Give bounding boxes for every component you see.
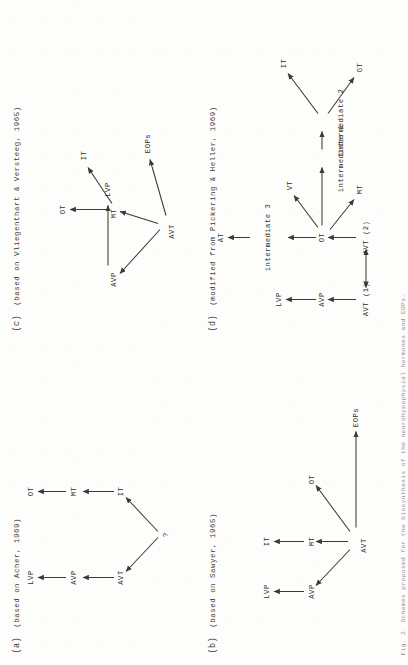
panel-d-node-i3: intermediate 3 <box>264 203 272 270</box>
panel-a-edges <box>8 337 204 657</box>
panel-d-node-avt1: AVT (1) <box>362 282 370 316</box>
panel-d-node-mt: MT <box>356 184 364 194</box>
panel-d-node-avp: AVP <box>318 292 326 306</box>
panel-b-node-mt: MT <box>308 536 316 546</box>
panel-b-node-lvp: LVP <box>263 584 271 598</box>
panel-c-node-avt: AVT <box>168 224 176 238</box>
panel-c: (c)(based on Vliegenthart & Versteeg, 19… <box>8 5 204 335</box>
panel-d-node-lvp: LVP <box>275 292 283 306</box>
panel-b-node-avt: AVT <box>360 538 368 552</box>
panel-d-node-avt2: AVT (2) <box>362 220 370 254</box>
panel-d-node-ot: OT <box>318 232 326 242</box>
panel-a-node-lvp: LVP <box>27 570 35 584</box>
panel-a-node-q: ? <box>162 532 170 537</box>
panel-a-node-avt: AVT <box>117 570 125 584</box>
panel-d-node-it: IT <box>280 58 288 68</box>
panel-d: (d)(modified from Pickering & Heller, 19… <box>204 5 404 335</box>
panel-c-node-avp: AVP <box>110 272 118 286</box>
figure-caption: Fig. 2. Schemes proposed for the biosynt… <box>400 293 407 655</box>
panel-a-node-it: IT <box>117 486 125 496</box>
panel-c-node-ot: OT <box>59 204 67 214</box>
panel-a: (a)(based on Acher, 1969) <box>8 337 204 657</box>
figure-canvas: (a)(based on Acher, 1969) <box>0 0 408 665</box>
panel-d-node-vt: VT <box>286 180 294 190</box>
panel-a-node-mt: MT <box>70 486 78 496</box>
panel-c-node-lvp: LVP <box>104 182 112 196</box>
panel-d-edges <box>204 5 404 335</box>
panel-d-node-i2: intermediate 2 <box>337 88 345 155</box>
panel-a-node-ot: OT <box>27 486 35 496</box>
panel-b-node-avp: AVP <box>308 584 316 598</box>
panel-c-node-eops: EOPs <box>144 133 152 152</box>
panel-b-node-ot: OT <box>308 474 316 484</box>
panel-d-node-at: AT <box>217 232 225 242</box>
panel-b: (b)(based on Sawyer, 1965) AVT AVP LVP M… <box>204 337 404 657</box>
panel-c-node-it: IT <box>80 150 88 160</box>
panel-c-edges <box>8 5 204 335</box>
panel-c-node-mt: MT <box>110 208 118 218</box>
panel-d-node-gt: GT <box>356 62 364 72</box>
panel-b-edges <box>204 337 404 657</box>
panel-a-node-avp: AVP <box>70 570 78 584</box>
panel-b-node-eops: EOPs <box>352 407 360 426</box>
panel-b-node-it: IT <box>263 536 271 546</box>
